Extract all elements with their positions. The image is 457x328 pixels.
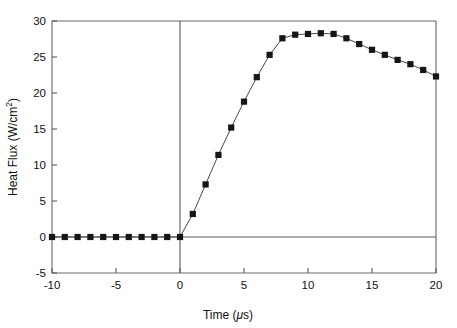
- y-tick-label: 30: [33, 15, 46, 27]
- y-tick-label: 10: [33, 159, 46, 171]
- x-tick-label: 10: [302, 279, 315, 291]
- x-axis-ticks: [52, 268, 436, 273]
- x-tick-label: -10: [44, 279, 61, 291]
- y-tick-label: 20: [33, 87, 46, 99]
- chart-canvas: -10-505101520 -5051015202530 Time (μs) H…: [0, 0, 457, 328]
- x-tick-label: 15: [366, 279, 379, 291]
- x-tick-label: 5: [241, 279, 247, 291]
- y-tick-label: 25: [33, 51, 46, 63]
- x-tick-label: 0: [177, 279, 183, 291]
- x-tick-label: 20: [430, 279, 443, 291]
- reference-lines: [52, 21, 436, 273]
- plot-frame: [52, 21, 436, 273]
- y-tick-label: 15: [33, 123, 46, 135]
- y-axis-tick-labels: -5051015202530: [33, 15, 46, 279]
- x-tick-label: -5: [111, 279, 121, 291]
- heat-flux-chart: -10-505101520 -5051015202530 Time (μs) H…: [0, 0, 457, 328]
- x-axis-tick-labels: -10-505101520: [44, 279, 443, 291]
- y-tick-label: -5: [36, 267, 46, 279]
- y-tick-label: 0: [40, 231, 46, 243]
- series-line-heat-flux: [52, 33, 436, 237]
- y-axis-title: Heat Flux (W/cm2): [4, 98, 20, 196]
- series-markers-heat-flux: [49, 30, 439, 240]
- y-tick-label: 5: [40, 195, 46, 207]
- x-axis-title: Time (μs): [203, 308, 253, 322]
